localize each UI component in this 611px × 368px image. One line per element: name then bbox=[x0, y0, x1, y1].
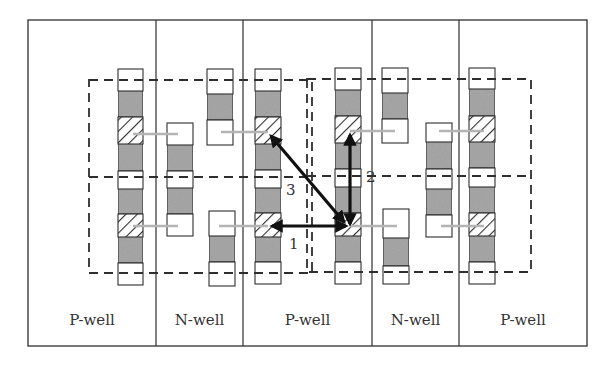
gate-poly-region bbox=[167, 145, 193, 171]
gate-poly-region bbox=[118, 237, 143, 263]
n-well-label: N-well bbox=[391, 311, 441, 329]
diffusion-region bbox=[426, 123, 452, 142]
gate-poly-region bbox=[255, 237, 281, 262]
diffusion-region bbox=[383, 266, 409, 284]
gate-poly-region bbox=[383, 238, 409, 266]
diffusion-region bbox=[382, 68, 408, 93]
diffusion-region bbox=[167, 171, 193, 188]
diffusion-region bbox=[469, 262, 495, 284]
outer-frame bbox=[28, 20, 587, 346]
gate-poly-region bbox=[207, 94, 233, 120]
gate-poly-region bbox=[255, 188, 281, 213]
diffusion-region bbox=[335, 262, 361, 284]
gate-poly-region bbox=[167, 188, 193, 214]
cmos-well-layout-diagram: P-wellN-wellP-wellN-wellP-well 123 bbox=[0, 0, 611, 368]
diffusion-region bbox=[383, 209, 409, 238]
diffusion-region bbox=[209, 211, 235, 236]
outer-frame-group bbox=[28, 20, 587, 346]
cell-boundaries-group bbox=[89, 79, 531, 273]
diffusion-region bbox=[335, 169, 361, 187]
gate-poly-region bbox=[118, 189, 143, 214]
p-well-label: P-well bbox=[500, 311, 546, 329]
gate-poly-region bbox=[118, 91, 143, 117]
diffusion-region bbox=[118, 171, 143, 189]
n-stack-4 bbox=[426, 123, 452, 237]
diffusion-region bbox=[255, 170, 281, 188]
n-well-label: N-well bbox=[175, 311, 225, 329]
diffusion-region bbox=[469, 168, 495, 187]
gate-poly-region bbox=[469, 187, 495, 213]
arrow-label-3: 3 bbox=[286, 181, 296, 199]
gate-poly-region bbox=[382, 93, 408, 119]
n-stack-1 bbox=[167, 123, 193, 236]
gate-poly-region bbox=[469, 142, 495, 168]
contact-hatched-region bbox=[118, 117, 143, 144]
n-stack-2-bottom bbox=[209, 211, 235, 286]
gate-poly-region bbox=[469, 236, 495, 262]
arrow-label-2: 2 bbox=[366, 168, 376, 186]
gate-poly-region bbox=[255, 144, 281, 170]
diffusion-region bbox=[426, 169, 452, 189]
p-well-label: P-well bbox=[69, 311, 115, 329]
diffusion-region bbox=[118, 263, 143, 285]
diffusion-region bbox=[207, 69, 233, 94]
spacing-arrow-3 bbox=[271, 136, 344, 222]
gate-poly-region bbox=[426, 142, 452, 169]
arrow-label-1: 1 bbox=[289, 235, 299, 253]
diffusion-region bbox=[209, 262, 235, 286]
gate-poly-region bbox=[335, 90, 361, 116]
contact-hatched-region bbox=[469, 116, 495, 142]
gate-poly-region bbox=[335, 236, 361, 262]
gate-poly-region bbox=[118, 144, 143, 171]
contact-hatched-region bbox=[469, 213, 495, 236]
gate-poly-region bbox=[255, 91, 281, 117]
p-well-label: P-well bbox=[285, 311, 331, 329]
gate-poly-region bbox=[335, 143, 361, 169]
contact-hatched-region bbox=[255, 117, 281, 144]
gate-poly-region bbox=[209, 236, 235, 262]
contact-hatched-region bbox=[335, 116, 361, 143]
gate-poly-region bbox=[426, 189, 452, 215]
gate-poly-region bbox=[335, 187, 361, 213]
gate-poly-region bbox=[469, 89, 495, 116]
